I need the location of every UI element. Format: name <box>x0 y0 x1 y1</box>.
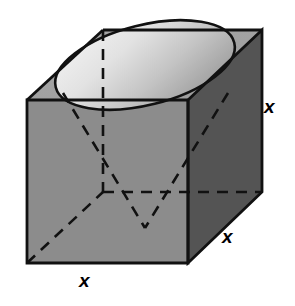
dimension-label-depth: x <box>222 227 233 246</box>
cube-cone-diagram <box>0 0 295 306</box>
cube-front-face <box>27 100 188 263</box>
figure-container: x x x <box>0 0 295 306</box>
dimension-label-height: x <box>264 97 275 116</box>
dimension-label-width: x <box>79 271 90 290</box>
